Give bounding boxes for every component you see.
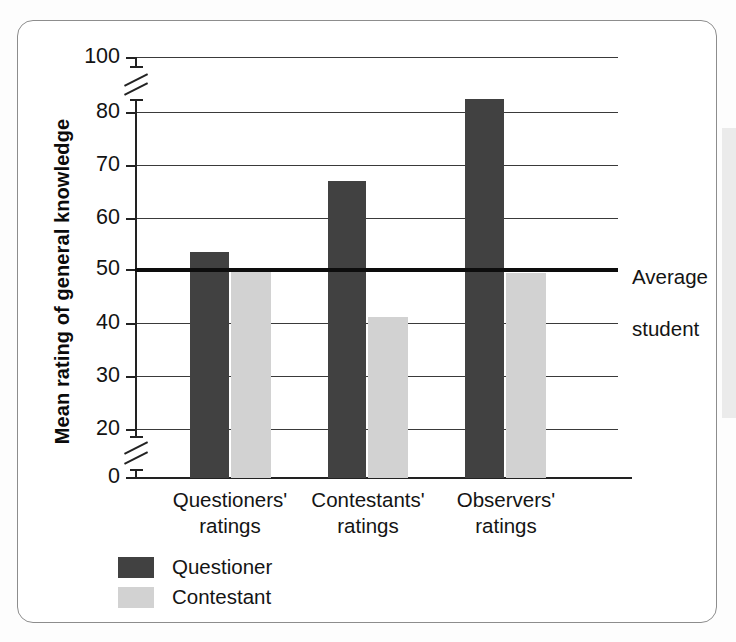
gridline-50-average-student [135, 268, 618, 272]
page-background: 100 80 70 60 50 40 30 20 0 Questioners' … [0, 0, 736, 642]
gridline-60 [135, 218, 618, 219]
legend-swatch-questioner [118, 557, 154, 578]
bar-questioner-contestants-ratings[interactable] [328, 181, 366, 478]
bar-questioner-questioners-ratings[interactable] [190, 252, 229, 478]
bar-questioner-observers-ratings[interactable] [465, 99, 504, 478]
y-tick-20 [126, 429, 136, 431]
y-tick-80 [126, 112, 136, 114]
bar-contestant-contestants-ratings[interactable] [368, 317, 408, 478]
legend-swatch-contestant [118, 587, 154, 608]
y-tick-label-100: 100 [60, 44, 120, 69]
annotation-line2: student [632, 316, 708, 342]
gridline-100 [135, 57, 618, 58]
y-tick-60 [126, 218, 136, 220]
y-tick-30 [126, 376, 136, 378]
x-label-line1: Observers' [406, 487, 606, 513]
y-tick-label-0: 0 [60, 464, 120, 489]
average-student-annotation: Average student [632, 238, 708, 368]
legend-label-questioner: Questioner [172, 555, 272, 579]
y-tick-40 [126, 323, 136, 325]
bar-contestant-observers-ratings[interactable] [506, 273, 546, 478]
y-axis-break-upper [122, 66, 150, 100]
bar-contestant-questioners-ratings[interactable] [231, 269, 271, 478]
bar-chart: 100 80 70 60 50 40 30 20 0 Questioners' … [0, 0, 736, 642]
y-tick-100 [126, 57, 136, 59]
y-axis-break-lower [122, 436, 150, 470]
chart-legend: Questioner Contestant [118, 552, 272, 612]
gridline-70 [135, 165, 618, 166]
y-tick-0 [126, 477, 136, 479]
legend-item-contestant[interactable]: Contestant [118, 582, 272, 612]
legend-label-contestant: Contestant [172, 585, 271, 609]
annotation-line1: Average [632, 264, 708, 290]
gridline-80 [135, 112, 618, 113]
legend-item-questioner[interactable]: Questioner [118, 552, 272, 582]
y-tick-70 [126, 165, 136, 167]
x-label-observers-ratings: Observers' ratings [406, 487, 606, 539]
x-label-line2: ratings [406, 513, 606, 539]
y-axis-title: Mean rating of general knowledge [51, 102, 74, 462]
